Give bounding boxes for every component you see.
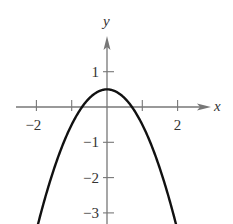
- y-tick-label: −3: [83, 205, 99, 221]
- x-tick-label: −2: [25, 117, 41, 133]
- parabola-graph: −221−1−2−3 x y: [0, 0, 233, 224]
- x-tick-label: 2: [174, 117, 182, 133]
- y-tick-label: −1: [83, 134, 99, 150]
- y-tick-label: 1: [92, 64, 100, 80]
- chart-container: −221−1−2−3 x y: [0, 0, 233, 224]
- x-axis-label: x: [213, 98, 221, 114]
- y-tick-label: −2: [83, 170, 99, 186]
- y-axis-label: y: [101, 13, 110, 29]
